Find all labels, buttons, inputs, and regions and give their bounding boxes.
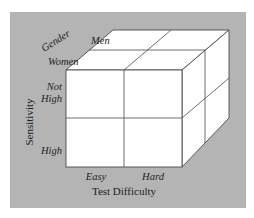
factorial-cube-diagram: Gender Men Women Not High High Sensitivi… [0, 0, 254, 218]
difficulty-level-hard: Hard [141, 171, 165, 182]
gender-level-women: Women [48, 56, 79, 67]
difficulty-axis-title: Test Difficulty [92, 185, 157, 197]
sensitivity-level-not-high-line1: Not [46, 81, 63, 92]
gender-level-men: Men [90, 35, 110, 46]
sensitivity-level-high: High [40, 145, 62, 156]
sensitivity-axis-title: Sensitivity [23, 98, 35, 146]
sensitivity-level-not-high-line2: High [40, 93, 62, 104]
difficulty-level-easy: Easy [85, 171, 107, 182]
